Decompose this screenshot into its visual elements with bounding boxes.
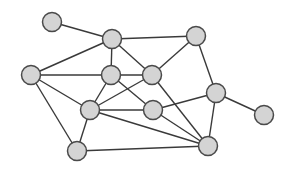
graph-node-C [187,27,206,46]
graph-edge-D-K [31,75,77,151]
graph-node-I [207,84,226,103]
graph-edges [31,22,264,151]
graph-node-K [68,142,87,161]
network-graph [0,0,293,173]
graph-node-F [143,66,162,85]
graph-node-L [199,137,218,156]
graph-node-E [102,66,121,85]
graph-node-J [255,106,274,125]
graph-node-B [103,30,122,49]
graph-edge-K-L [77,146,208,151]
graph-edge-B-C [112,36,196,39]
graph-nodes [22,13,274,161]
graph-node-G [81,101,100,120]
graph-node-A [43,13,62,32]
graph-node-H [144,101,163,120]
graph-edge-D-G [31,75,90,110]
graph-edge-F-G [90,75,152,110]
graph-edge-B-D [31,39,112,75]
graph-node-D [22,66,41,85]
